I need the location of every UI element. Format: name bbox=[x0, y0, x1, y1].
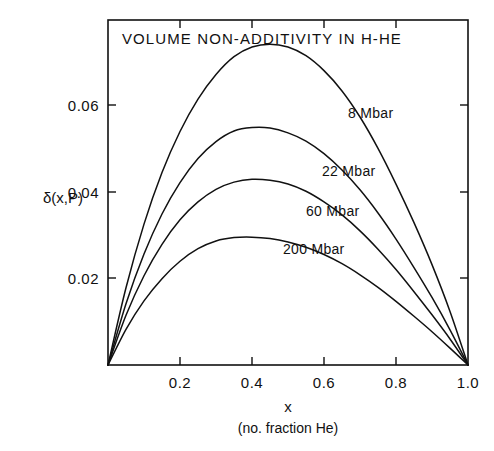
x-axis-sublabel: (no. fraction He) bbox=[238, 420, 338, 436]
curve-label-60-mbar: 60 Mbar bbox=[306, 203, 359, 219]
xtick-label-0.6: 0.6 bbox=[313, 374, 335, 391]
xtick-label-0.8: 0.8 bbox=[385, 374, 407, 391]
y-axis-label: δ(x,P) bbox=[43, 189, 83, 206]
xtick-label-0.2: 0.2 bbox=[169, 374, 191, 391]
ytick-label-0.02: 0.02 bbox=[68, 270, 99, 287]
ytick-label-0.06: 0.06 bbox=[68, 97, 99, 114]
curve-label-8-mbar: 8 Mbar bbox=[348, 105, 393, 121]
chart-figure: VOLUME NON-ADDITIVITY IN H-HE 0.06 0.04 … bbox=[0, 0, 494, 451]
curve-label-200-mbar: 200 Mbar bbox=[283, 241, 345, 257]
curve-label-22-mbar: 22 Mbar bbox=[322, 163, 375, 179]
x-axis-label: x bbox=[284, 398, 292, 415]
xtick-label-0.4: 0.4 bbox=[241, 374, 263, 391]
xtick-label-1.0: 1.0 bbox=[457, 374, 479, 391]
volume-non-additivity-plot: VOLUME NON-ADDITIVITY IN H-HE 0.06 0.04 … bbox=[0, 0, 494, 451]
